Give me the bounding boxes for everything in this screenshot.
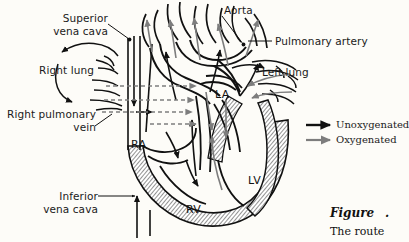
label-aorta: Aorta (224, 4, 284, 17)
caption-body: The route (330, 225, 384, 238)
label-right-pulmonary-vein: Right pulmonary vein (0, 108, 96, 133)
label-left-ventricle: LV (248, 174, 261, 187)
legend-label-oxygenated: Oxygenated (336, 134, 397, 145)
label-inferior-vena-cava: Inferior vena cava (18, 190, 98, 215)
label-superior-vena-cava: Superior vena cava (18, 12, 108, 37)
label-left-atrium: LA (215, 88, 230, 101)
caption-figure-word: Figure (330, 206, 374, 220)
label-left-lung: Left lung (262, 66, 332, 79)
caption-figure-number: . (385, 206, 389, 220)
legend-label-unoxygenated: Unoxygenated (336, 119, 409, 130)
label-right-ventricle: RV (186, 203, 201, 216)
label-right-atrium: RA (131, 138, 146, 151)
label-right-lung: Right lung (18, 64, 94, 77)
label-pulmonary-artery: Pulmonary artery (275, 35, 385, 48)
